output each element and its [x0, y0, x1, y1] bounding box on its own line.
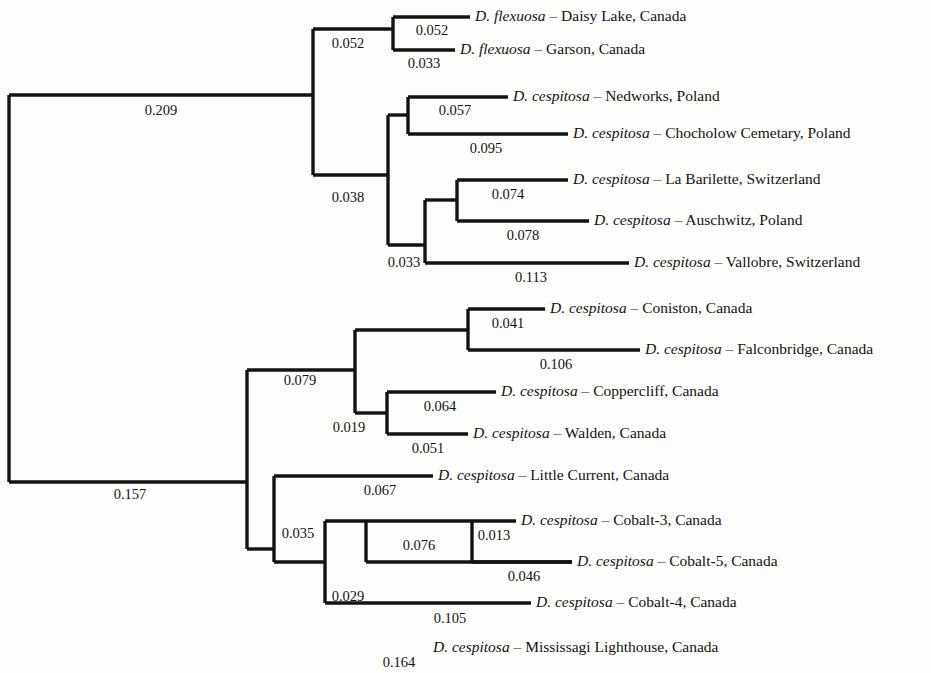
tip-genus-nedworks: D. cespitosa: [512, 87, 594, 104]
tip-label-vallobre: D. cespitosa – Vallobre, Switzerland: [633, 253, 860, 270]
tip-label-cobalt-3: D. cespitosa – Cobalt-3, Canada: [520, 511, 722, 528]
tip-locality-cobalt-4: – Cobalt-4, Canada: [616, 593, 737, 610]
tip-genus-coppercliff: D. cespitosa: [500, 382, 582, 399]
branch-length-label-bl-0079: 0.079: [284, 372, 317, 388]
tip-locality-cobalt-5: – Cobalt-5, Canada: [657, 552, 778, 569]
tip-label-auschwitz: D. cespitosa – Auschwitz, Poland: [593, 211, 803, 228]
branch-length-label-bl-0106: 0.106: [540, 356, 573, 372]
tip-genus-falconbridge: D. cespitosa: [644, 340, 726, 357]
tip-genus-cobalt-3: D. cespitosa: [520, 511, 602, 528]
branch-length-label-bl-0078: 0.078: [507, 227, 540, 243]
tip-genus-vallobre: D. cespitosa: [633, 253, 715, 270]
branch-length-label-bl-0157: 0.157: [114, 486, 147, 502]
branch-length-label-bl-0113: 0.113: [515, 269, 547, 285]
tip-genus-coniston: D. cespitosa: [549, 299, 631, 316]
branch-length-label-bl-0033-tip: 0.033: [408, 55, 441, 71]
tip-locality-walden: – Walden, Canada: [553, 424, 667, 441]
branch-length-label-bl-0064: 0.064: [424, 398, 457, 414]
branch-length-label-bl-0046: 0.046: [508, 568, 541, 584]
branch-length-label-bl-0209: 0.209: [145, 102, 178, 118]
tip-genus-mississagi-lighthouse: D. cespitosa: [432, 638, 514, 655]
tip-locality-cobalt-3: – Cobalt-3, Canada: [601, 511, 722, 528]
branch-length-label-bl-0076: 0.076: [403, 537, 436, 553]
branch-length-label-bl-0041: 0.041: [492, 315, 525, 331]
branch-length-label-bl-0074: 0.074: [492, 186, 525, 202]
phylogenetic-tree-figure: D. flexuosa – Daisy Lake, CanadaD. flexu…: [0, 0, 931, 673]
tip-label-nedworks: D. cespitosa – Nedworks, Poland: [512, 87, 720, 104]
tip-locality-daisy-lake: – Daisy Lake, Canada: [548, 7, 686, 24]
tip-locality-vallobre: – Vallobre, Switzerland: [714, 253, 861, 270]
branch-length-label-bl-0033-alpine: 0.033: [388, 254, 421, 270]
tip-genus-daisy-lake: D. flexuosa: [474, 7, 549, 24]
branch-length-label-bl-0057: 0.057: [439, 102, 472, 118]
tip-locality-auschwitz: – Auschwitz, Poland: [674, 211, 803, 228]
tip-locality-la-barilette: – La Barilette, Switzerland: [653, 170, 821, 187]
branch-length-label-bl-0013: 0.013: [478, 527, 511, 543]
branch-length-label-layer: 0.2090.0520.0520.0330.0380.0570.0950.033…: [114, 22, 573, 670]
branch-length-label-bl-0029: 0.029: [332, 588, 365, 604]
branch-length-label-bl-0164: 0.164: [383, 654, 416, 670]
tip-genus-cobalt-5: D. cespitosa: [576, 552, 658, 569]
tip-label-chocholow-cemetary: D. cespitosa – Chocholow Cemetary, Polan…: [572, 124, 851, 141]
branch-length-label-bl-0052-clade: 0.052: [332, 35, 365, 51]
tip-locality-falconbridge: – Falconbridge, Canada: [725, 340, 874, 357]
branch-length-label-bl-0038: 0.038: [332, 189, 365, 205]
tip-label-mississagi-lighthouse: D. cespitosa – Mississagi Lighthouse, Ca…: [432, 638, 719, 655]
tip-label-la-barilette: D. cespitosa – La Barilette, Switzerland: [572, 170, 821, 187]
tip-label-cobalt-5: D. cespitosa – Cobalt-5, Canada: [576, 552, 778, 569]
tip-genus-auschwitz: D. cespitosa: [593, 211, 675, 228]
tip-locality-coniston: – Coniston, Canada: [630, 299, 753, 316]
tip-genus-little-current: D. cespitosa: [437, 466, 519, 483]
tip-label-coniston: D. cespitosa – Coniston, Canada: [549, 299, 752, 316]
branch-length-label-bl-0105: 0.105: [434, 610, 467, 626]
branch-length-label-bl-0051: 0.051: [412, 440, 445, 456]
tip-genus-chocholow-cemetary: D. cespitosa: [572, 124, 654, 141]
tip-locality-mississagi-lighthouse: – Mississagi Lighthouse, Canada: [513, 638, 719, 655]
tip-locality-chocholow-cemetary: – Chocholow Cemetary, Poland: [653, 124, 851, 141]
branch-length-label-bl-0067: 0.067: [364, 482, 397, 498]
tip-locality-garson: – Garson, Canada: [533, 40, 645, 57]
branch-length-label-bl-0052-tip: 0.052: [416, 22, 449, 38]
tip-label-daisy-lake: D. flexuosa – Daisy Lake, Canada: [474, 7, 686, 24]
tip-genus-cobalt-4: D. cespitosa: [535, 593, 617, 610]
tree-canvas: D. flexuosa – Daisy Lake, CanadaD. flexu…: [0, 0, 931, 673]
tip-label-falconbridge: D. cespitosa – Falconbridge, Canada: [644, 340, 873, 357]
branch-length-label-bl-0035: 0.035: [282, 525, 315, 541]
tip-genus-walden: D. cespitosa: [472, 424, 554, 441]
tip-label-little-current: D. cespitosa – Little Current, Canada: [437, 466, 669, 483]
branch-length-label-bl-0019: 0.019: [333, 419, 366, 435]
tip-locality-coppercliff: – Coppercliff, Canada: [581, 382, 719, 399]
tip-genus-la-barilette: D. cespitosa: [572, 170, 654, 187]
tip-locality-nedworks: – Nedworks, Poland: [593, 87, 720, 104]
tip-label-cobalt-4: D. cespitosa – Cobalt-4, Canada: [535, 593, 737, 610]
tip-genus-garson: D. flexuosa: [459, 40, 534, 57]
tip-locality-little-current: – Little Current, Canada: [518, 466, 670, 483]
tip-label-garson: D. flexuosa – Garson, Canada: [459, 40, 645, 57]
branch-length-label-bl-0095: 0.095: [470, 140, 503, 156]
tip-label-walden: D. cespitosa – Walden, Canada: [472, 424, 666, 441]
tip-label-coppercliff: D. cespitosa – Coppercliff, Canada: [500, 382, 719, 399]
